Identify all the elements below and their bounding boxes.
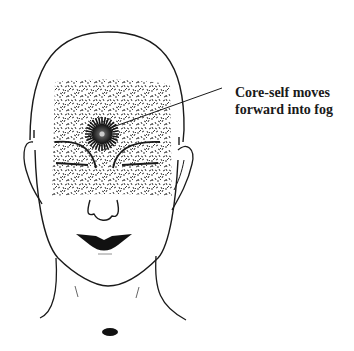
throat-mark [102, 328, 118, 336]
mouth [76, 234, 132, 251]
neck-left [40, 258, 56, 318]
left-ear [24, 142, 42, 204]
nose [88, 200, 118, 220]
neck-right [156, 256, 186, 320]
head-illustration [0, 0, 354, 351]
annotation-label-line2: forward into fog [235, 101, 333, 118]
annotation-label-line1: Core-self moves [235, 84, 330, 101]
core-self-starburst-icon [85, 117, 119, 151]
